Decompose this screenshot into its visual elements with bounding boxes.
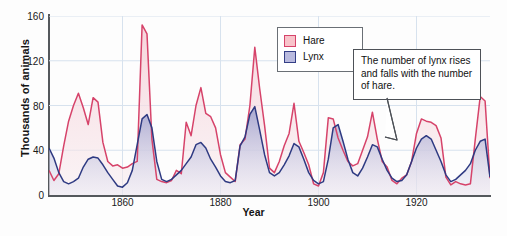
y-axis-tick-labels: 04080120160 (0, 0, 44, 236)
x-tick-label: 1900 (307, 197, 329, 208)
legend-swatch-hare-icon (284, 35, 296, 47)
y-tick-label: 160 (4, 11, 44, 22)
chart-svg (49, 16, 490, 195)
hare-lynx-population-chart: Thousands of animals 04080120160 Year (0, 0, 507, 236)
x-axis-title: Year (0, 206, 507, 218)
y-tick-label: 40 (4, 145, 44, 156)
plot-area (49, 16, 490, 195)
annotation-callout: The number of lynx rises and falls with … (353, 49, 481, 100)
legend-item-lynx[interactable]: Lynx (284, 49, 356, 65)
legend-label-lynx: Lynx (303, 52, 324, 62)
chart-legend: Hare Lynx (277, 27, 363, 72)
legend-item-hare[interactable]: Hare (284, 33, 356, 49)
legend-swatch-lynx-icon (284, 51, 296, 63)
y-tick-label: 80 (4, 100, 44, 111)
annotation-text: The number of lynx rises and falls with … (361, 55, 474, 93)
y-tick-label: 120 (4, 55, 44, 66)
x-tick-label: 1920 (405, 197, 427, 208)
legend-label-hare: Hare (303, 36, 325, 46)
x-tick-label: 1880 (209, 197, 231, 208)
x-tick-label: 1860 (111, 197, 133, 208)
y-tick-label: 0 (4, 190, 44, 201)
